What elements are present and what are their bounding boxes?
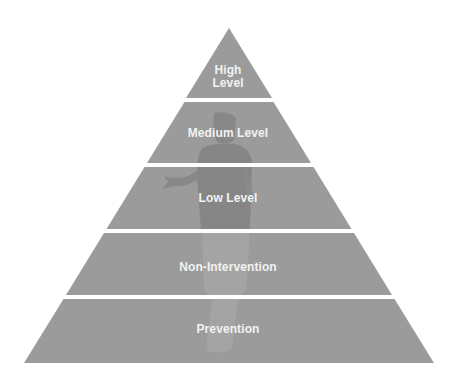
level-label-prevention: Prevention bbox=[0, 323, 456, 336]
level-label-non-intervention: Non-Intervention bbox=[0, 261, 456, 274]
level-label-medium: Medium Level bbox=[0, 127, 456, 140]
level-label-high-line2: Level bbox=[0, 77, 456, 90]
level-label-high: High Level bbox=[0, 64, 456, 90]
pyramid-diagram: High Level Medium Level Low Level Non-In… bbox=[0, 0, 456, 383]
level-label-low: Low Level bbox=[0, 192, 456, 205]
